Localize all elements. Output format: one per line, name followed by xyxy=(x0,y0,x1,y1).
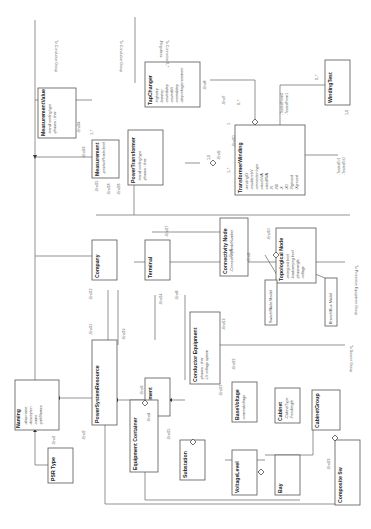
svg-text:-End1: -End1 xyxy=(52,435,56,445)
class-naming[interactable]: Naming -alias name -description -name -p… xyxy=(15,380,59,430)
svg-text:PSR Type: PSR Type xyxy=(50,457,56,481)
note-branch-bus-model: Branch/Bus Model xyxy=(325,278,337,326)
svg-text:VoltageLevel: VoltageLevel xyxy=(234,461,240,493)
svg-text:MeasurementValue: MeasurementValue xyxy=(40,89,46,136)
svg-text:-End10: -End10 xyxy=(267,228,271,240)
class-power-system-resource[interactable]: PowerSystemResource xyxy=(92,340,117,425)
svg-text:-highstep: -highstep xyxy=(155,88,159,103)
svg-text:-R0: -R0 xyxy=(275,184,279,190)
svg-text:-TestedFrom0: -TestedFrom0 xyxy=(280,93,284,115)
svg-text:TransformerWinding: TransformerWinding xyxy=(237,142,243,193)
svg-text:-End3: -End3 xyxy=(140,385,144,395)
svg-text:Substation: Substation xyxy=(182,451,188,478)
svg-text:0..*: 0..* xyxy=(165,62,169,68)
class-psr-type[interactable]: PSR Type xyxy=(48,448,73,483)
svg-text:-End10: -End10 xyxy=(232,135,236,147)
class-power-transformer[interactable]: PowerTransformer -transf cooling type -p… xyxy=(128,130,163,185)
class-winding-test[interactable]: WindingTest xyxy=(325,60,350,105)
svg-text:-End6: -End6 xyxy=(175,290,179,300)
svg-text:-phases : char: -phases : char xyxy=(200,356,204,380)
class-voltage-level[interactable]: VoltageLevel xyxy=(232,450,257,495)
ref-conductor-group-2: To Conductor Group xyxy=(119,40,123,72)
svg-text:-phases : char: -phases : char xyxy=(53,110,57,134)
uml-diagram-canvas: To Conductor Group To Conductor Group To… xyxy=(0,0,371,529)
svg-text:-R: -R xyxy=(270,186,274,190)
svg-text:0..*: 0..* xyxy=(237,99,241,105)
svg-text:Cabinet: Cabinet xyxy=(277,402,283,421)
svg-text:-insulationkV: -insulationkV xyxy=(250,169,254,190)
svg-text:-End8: -End8 xyxy=(203,80,207,90)
class-base-voltage[interactable]: BaseVoltage -nominalvoltage xyxy=(232,382,257,422)
svg-text:CabinetGroup: CabinetGroup xyxy=(314,393,320,428)
class-connectivity-node[interactable]: Connectivity Node -ConnectivityNodeNumbe… xyxy=(220,218,248,276)
svg-text:-positiveFlowIn:bool: -positiveFlowIn:bool xyxy=(102,142,106,174)
svg-text:-Regulates: -Regulates xyxy=(159,40,163,58)
svg-text:-Rground: -Rground xyxy=(290,175,294,190)
svg-text:-End12: -End12 xyxy=(89,288,93,300)
class-measurement-value[interactable]: MeasurementValue -transf cooling type -p… xyxy=(38,88,76,138)
class-conductor-equipment[interactable]: Conductor Equipment -phases : char -LV v… xyxy=(190,312,220,384)
class-substation[interactable]: Substation xyxy=(180,440,205,480)
svg-text:-name: -name xyxy=(34,415,38,425)
svg-text:-alias name: -alias name xyxy=(24,406,28,425)
svg-text:-neutralkV: -neutralkV xyxy=(170,86,174,103)
svg-text:1: 1 xyxy=(227,123,231,125)
class-cabinet[interactable]: Cabinet -CabinetType -Feedlength xyxy=(275,388,300,423)
class-measurement[interactable]: Measurement -positiveFlowIn:bool xyxy=(92,140,119,178)
svg-text:-TestedFrom1: -TestedFrom1 xyxy=(285,93,289,115)
class-tap-changer[interactable]: TapChanger -highstep -lowstep -neutralst… xyxy=(145,62,200,107)
svg-text:-windingID: -windingID xyxy=(245,173,249,190)
svg-text:-End4: -End4 xyxy=(147,412,151,422)
svg-text:Company: Company xyxy=(94,254,100,278)
svg-text:TapChanger: TapChanger xyxy=(147,75,153,105)
svg-text:-End18: -End18 xyxy=(107,183,111,195)
svg-text:-ratedMVA: -ratedMVA xyxy=(265,172,269,190)
svg-text:Terminal: Terminal xyxy=(147,256,153,278)
ref-conductor-group-1: To Conductor Group xyxy=(54,40,58,72)
class-cabinet-group[interactable]: CabinetGroup xyxy=(312,390,340,430)
svg-text:Bay: Bay xyxy=(277,483,283,493)
svg-text:-End7: -End7 xyxy=(222,95,226,105)
svg-text:-nominalvoltage: -nominalvoltage xyxy=(242,395,246,420)
svg-text:-End13: -End13 xyxy=(222,318,226,330)
svg-text:-normalstep: -normalstep xyxy=(175,84,179,103)
svg-text:-End11: -End11 xyxy=(89,324,93,335)
svg-text:Conductor Equipment: Conductor Equipment xyxy=(192,327,198,382)
svg-text:-End23: -End23 xyxy=(327,458,331,470)
class-topological-node[interactable]: Topological Node -energized bool -loadca… xyxy=(276,228,316,283)
svg-text:1,0: 1,0 xyxy=(345,110,349,115)
svg-text:1..*: 1..* xyxy=(227,167,231,173)
svg-text:-End33: -End33 xyxy=(82,146,86,158)
ref-protection-group: To Protection Equipment Group xyxy=(354,265,358,315)
svg-text:Switch/Node Model: Switch/Node Model xyxy=(269,290,273,323)
svg-text:Branch/Bus Model: Branch/Bus Model xyxy=(329,293,333,324)
class-equipment-container[interactable]: Equipment Container xyxy=(130,400,158,472)
class-terminal[interactable]: Terminal xyxy=(145,240,170,280)
svg-text:-description: -description xyxy=(29,406,33,425)
svg-text:-X0: -X0 xyxy=(285,184,289,190)
svg-text:BaseVoltage: BaseVoltage xyxy=(234,389,240,420)
svg-text:Connectivity Node: Connectivity Node xyxy=(222,228,228,274)
svg-text:-End21: -End21 xyxy=(219,384,223,396)
ref-source-group: To Source Group xyxy=(349,345,353,372)
class-bay[interactable]: Bay xyxy=(275,455,300,495)
svg-text:-End14: -End14 xyxy=(159,293,163,305)
svg-text:-End9: -End9 xyxy=(247,252,251,262)
svg-text:-energized bool: -energized bool xyxy=(286,254,290,279)
svg-text:-End34: -End34 xyxy=(77,121,81,133)
svg-text:Equipment Container: Equipment Container xyxy=(132,418,138,470)
svg-text:-CabinetType: -CabinetType xyxy=(285,398,289,419)
svg-text:1,0: 1,0 xyxy=(207,155,211,160)
note-switch-node-model: Switch/Node Model xyxy=(265,280,277,325)
svg-text:-LV voltage system: -LV voltage system xyxy=(205,350,209,380)
svg-text:-lowstep: -lowstep xyxy=(160,90,164,103)
svg-text:-End26: -End26 xyxy=(117,183,121,195)
class-company[interactable]: Company xyxy=(92,240,117,280)
svg-text:-End2: -End2 xyxy=(82,430,86,440)
class-composite-sw[interactable]: Composite Sw xyxy=(335,440,360,505)
class-transformer-winding[interactable]: TransformerWinding -windingID -insulatio… xyxy=(235,125,305,195)
svg-text:PowerSystemResource: PowerSystemResource xyxy=(94,365,100,423)
svg-text:-phaseangle: -phaseangle xyxy=(296,259,300,279)
svg-text:PowerTransformer: PowerTransformer xyxy=(130,137,136,183)
svg-text:-rated kVA: -rated kVA xyxy=(260,173,264,190)
